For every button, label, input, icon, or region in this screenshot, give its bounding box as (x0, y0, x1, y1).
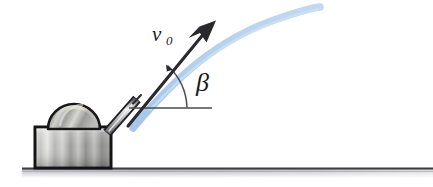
launcher-dome (48, 104, 100, 129)
trajectory-curve-highlight (150, 10, 318, 111)
ground-group (22, 169, 433, 179)
velocity-label: v 0 (152, 22, 173, 48)
ground-band-fade (22, 169, 433, 178)
velocity-label-subscript: 0 (166, 33, 173, 48)
base-box-shading (37, 129, 110, 167)
projectile-launcher-figure: v 0 β (0, 0, 433, 187)
velocity-label-symbol: v (152, 22, 162, 46)
velocity-arrow-head (189, 21, 217, 43)
angle-label-beta: β (195, 68, 209, 97)
figure-canvas: v 0 β (0, 0, 433, 187)
launcher-base-box (35, 127, 111, 168)
